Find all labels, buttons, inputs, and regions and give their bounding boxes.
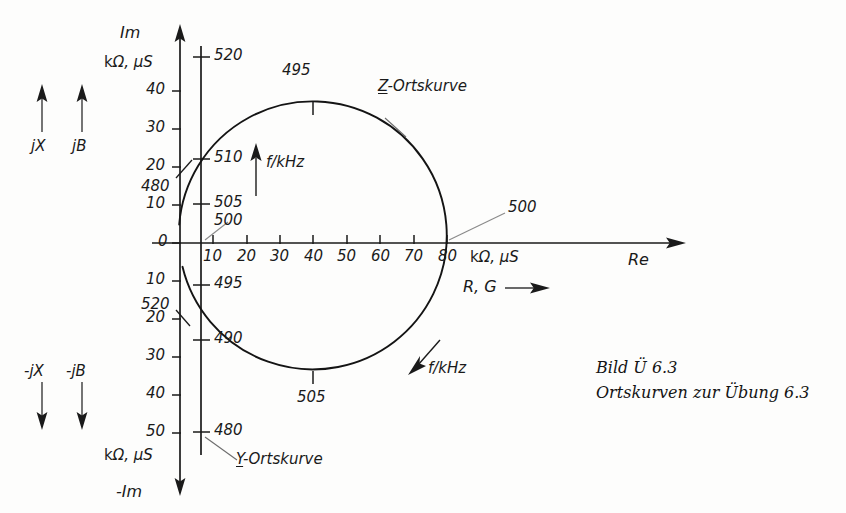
freq-direction-label-lower: f/kHz [428,361,466,376]
circle-label-520: 520 [141,297,170,312]
real-axis-label: Re [628,252,649,268]
freq-label-505-upper: 505 [214,195,243,210]
y-tick-label-neg10: 10 [146,272,165,287]
arrow-jx-down [37,382,48,430]
y-tick-label-neg50: 50 [146,424,165,439]
arrow-jb-up [77,84,88,132]
freq-direction-label-upper: f/kHz [266,155,304,170]
leader-520-lower [176,310,190,326]
imaginary-axis-label-positive: Im [120,25,140,41]
leader-y-ortskurve [205,437,237,460]
x-tick-label-80: 80 [438,249,457,264]
y-ortskurve-label: Y-Ortskurve [236,452,323,467]
arrow-rg-right [505,282,550,293]
arrow-jb-down [77,382,88,430]
y-ortskurve-rest: -Ortskurve [243,450,323,468]
circle-label-505: 505 [297,390,326,405]
x-tick-label-30: 30 [270,249,289,264]
figure-caption-line2: Ortskurven zur Übung 6.3 [596,381,810,404]
y-tick-label-10: 10 [146,196,165,211]
x-tick-label-10: 10 [203,249,222,264]
freq-label-520-upper: 520 [214,48,243,63]
z-ortskurve-label: Z-Ortskurve [378,79,467,94]
label-jb: jB [72,139,86,154]
freq-arrow-upper [250,143,261,196]
circle-label-480: 480 [141,179,170,194]
imaginary-axis-label-negative: -Im [116,484,142,500]
freq-label-480-lower: 480 [214,423,243,438]
freq-label-510: 510 [214,150,243,165]
freq-label-495-lower: 495 [214,276,243,291]
x-tick-label-40: 40 [304,249,323,264]
label-jx: jX [31,139,45,154]
y-tick-label-neg40: 40 [146,386,165,401]
y-tick-label-30: 30 [146,120,165,135]
circle-label-500: 500 [508,200,537,215]
figure-canvas: Im kΩ, µS kΩ, µS -Im kΩ, µS Re R, G jX j… [0,0,846,513]
y-tick-label-0: 0 [158,234,168,249]
real-quantities-label: R, G [463,279,497,295]
x-tick-label-60: 60 [371,249,390,264]
imaginary-axis [172,24,185,496]
freq-label-490: 490 [214,331,243,346]
y-tick-label-20: 20 [146,158,165,173]
freq-label-500-origin: 500 [214,213,243,228]
z-ortskurve-rest: -Ortskurve [388,77,468,95]
circle-label-495: 495 [282,63,311,78]
z-symbol: Z [378,77,388,95]
x-tick-label-50: 50 [337,249,356,264]
x-tick-label-70: 70 [404,249,423,264]
x-tick-label-20: 20 [237,249,256,264]
leader-480-upper [176,160,192,178]
y-tick-label-40: 40 [146,82,165,97]
label-minus-jx: -jX [24,364,44,379]
figure-caption-line1: Bild Ü 6.3 [596,356,677,379]
arrow-jx-up [37,84,48,132]
unit-label-real-axis: kΩ, µS [470,250,519,265]
unit-label-upper-left: kΩ, µS [104,55,153,70]
leader-z-ortskurve [385,118,406,137]
leader-500-right [449,213,505,240]
label-minus-jb: -jB [66,364,86,379]
y-tick-label-neg30: 30 [146,348,165,363]
unit-label-lower-left: kΩ, µS [104,448,153,463]
